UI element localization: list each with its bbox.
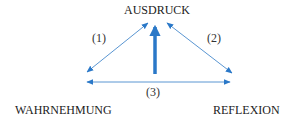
node-wahrnehmung: WAHRNEHMUNG (15, 104, 112, 116)
edge-1-label: (1) (92, 32, 106, 44)
edge-2-arrow (167, 23, 232, 73)
diagram-canvas: AUSDRUCK WAHRNEHMUNG REFLEXION (1) (2) (… (0, 0, 298, 121)
edge-2-label: (2) (207, 32, 221, 44)
node-reflexion: REFLEXION (213, 104, 280, 116)
edge-3-label: (3) (146, 86, 160, 98)
node-ausdruck: AUSDRUCK (124, 4, 190, 16)
